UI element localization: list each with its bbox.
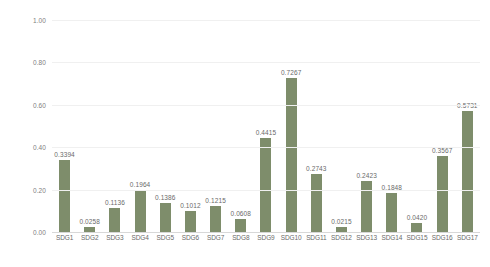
bar-slot: 0.1012 [178,20,203,232]
x-axis-tick-label: SDG13 [354,234,379,248]
bar[interactable] [109,208,120,232]
bar-slot: 0.3394 [52,20,77,232]
x-axis-tick-label: SDG16 [430,234,455,248]
x-axis-tick-label: SDG10 [279,234,304,248]
bar-slot: 0.0608 [228,20,253,232]
bar-value-label: 0.0258 [80,218,100,225]
bar-value-label: 0.1012 [180,202,200,209]
x-axis-tick-label: SDG8 [228,234,253,248]
bar-slot: 0.7267 [279,20,304,232]
bar-slot: 0.0215 [329,20,354,232]
gridline [52,62,480,63]
bar-value-label: 0.0608 [231,210,251,217]
bar[interactable] [437,156,448,232]
bar[interactable] [235,219,246,232]
bar-slot: 0.0258 [77,20,102,232]
bar[interactable] [185,211,196,232]
bar-value-label: 0.7267 [281,69,301,76]
x-axis-tick-label: SDG3 [102,234,127,248]
bar-slot: 0.3567 [430,20,455,232]
bar[interactable] [135,190,146,232]
gridline [52,20,480,21]
bar-slot: 0.0420 [404,20,429,232]
bar-slot: 0.1215 [203,20,228,232]
bar-slot: 0.1964 [128,20,153,232]
bar[interactable] [160,203,171,232]
x-axis-tick-label: SDG7 [203,234,228,248]
x-axis-tick-label: SDG6 [178,234,203,248]
bar-value-label: 0.2423 [356,172,376,179]
y-axis-tick-label: 0.40 [33,144,46,151]
bar[interactable] [361,181,372,232]
x-axis-tick-label: SDG11 [304,234,329,248]
bar-value-label: 0.0420 [407,214,427,221]
bar[interactable] [210,206,221,232]
bar-value-label: 0.3394 [54,151,74,158]
bar-value-label: 0.4415 [256,129,276,136]
y-axis: 0.000.200.400.600.801.00 [0,20,46,232]
bar[interactable] [260,138,271,232]
y-axis-tick-label: 0.20 [33,186,46,193]
x-axis-tick-label: SDG17 [455,234,480,248]
x-axis-tick-label: SDG15 [404,234,429,248]
bar-value-label: 0.1136 [105,199,125,206]
y-axis-tick-label: 0.80 [33,59,46,66]
bar-value-label: 0.2743 [306,165,326,172]
bar-slot: 0.1386 [153,20,178,232]
y-axis-tick-label: 0.00 [33,229,46,236]
x-axis-tick-label: SDG1 [52,234,77,248]
bar-value-label: 0.0215 [331,218,351,225]
x-axis-tick-label: SDG12 [329,234,354,248]
bar-series: 0.33940.02580.11360.19640.13860.10120.12… [52,20,480,232]
gridline [52,147,480,148]
bar-value-label: 0.1964 [130,181,150,188]
gridline [52,232,480,233]
x-axis: SDG1SDG2SDG3SDG4SDG5SDG6SDG7SDG8SDG9SDG1… [52,234,480,248]
bar-slot: 0.1848 [379,20,404,232]
bar-slot: 0.2423 [354,20,379,232]
bar[interactable] [411,223,422,232]
x-axis-tick-label: SDG5 [153,234,178,248]
bar-value-label: 0.1215 [205,197,225,204]
bar-slot: 0.5731 [455,20,480,232]
x-axis-tick-label: SDG9 [253,234,278,248]
gridline [52,190,480,191]
x-axis-tick-label: SDG14 [379,234,404,248]
bar[interactable] [311,174,322,232]
bar[interactable] [462,111,473,232]
bar-slot: 0.1136 [102,20,127,232]
bar-chart: 0.000.200.400.600.801.00 0.33940.02580.1… [0,0,490,267]
bar[interactable] [286,78,297,232]
y-axis-tick-label: 0.60 [33,101,46,108]
bar[interactable] [386,193,397,232]
x-axis-tick-label: SDG2 [77,234,102,248]
bar[interactable] [59,160,70,232]
bar-value-label: 0.1386 [155,194,175,201]
bar-slot: 0.2743 [304,20,329,232]
x-axis-tick-label: SDG4 [128,234,153,248]
gridline [52,105,480,106]
bar-value-label: 0.3567 [432,147,452,154]
bar-slot: 0.4415 [253,20,278,232]
y-axis-tick-label: 1.00 [33,17,46,24]
